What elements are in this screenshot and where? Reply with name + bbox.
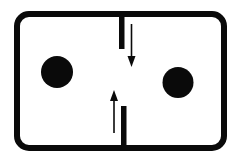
background [0,0,237,162]
left-particle [41,56,73,88]
chamber-diagram [0,0,237,162]
right-particle [163,67,194,98]
top-barrier [119,14,125,49]
bottom-barrier [121,106,127,148]
